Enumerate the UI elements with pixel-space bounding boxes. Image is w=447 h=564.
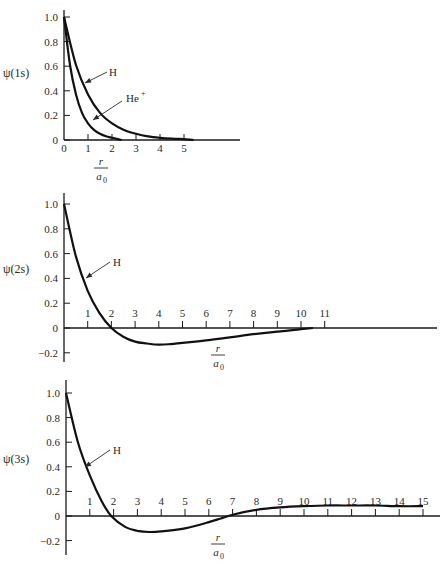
x-label-denominator: a bbox=[96, 170, 102, 182]
x-tick-label: 2 bbox=[109, 307, 115, 319]
x-tick-label: 3 bbox=[132, 307, 138, 319]
x-tick-label: 4 bbox=[156, 307, 162, 319]
chart-2s: −0.200.20.40.60.81.01234567891011ψ(2s)ra… bbox=[3, 193, 437, 372]
y-tick-label: 0.6 bbox=[44, 248, 58, 260]
x-tick-label: 1 bbox=[85, 142, 91, 154]
x-label-subscript: 0 bbox=[220, 363, 224, 372]
x-tick-label: 1 bbox=[85, 307, 91, 319]
y-tick-label: 0.8 bbox=[44, 223, 58, 235]
y-axis-label: ψ(3s) bbox=[3, 452, 29, 466]
chart-1s: 00.20.40.60.81.0012345ψ(1s)ra0HHe+ bbox=[3, 10, 240, 185]
x-label-numerator: r bbox=[216, 531, 221, 543]
x-tick-label: 5 bbox=[182, 495, 188, 507]
x-tick-label: 4 bbox=[157, 142, 163, 154]
y-tick-label: −0.2 bbox=[40, 535, 60, 547]
x-label-denominator: a bbox=[213, 357, 219, 369]
x-tick-label: 3 bbox=[135, 495, 141, 507]
y-tick-label: 0.2 bbox=[46, 485, 60, 497]
y-tick-label: 0.4 bbox=[46, 461, 60, 473]
x-label-subscript: 0 bbox=[103, 176, 107, 185]
annotation-he-plus-sup: + bbox=[141, 89, 146, 98]
y-tick-label: 0.2 bbox=[44, 297, 58, 309]
x-tick-label: 10 bbox=[296, 307, 308, 319]
curve-h bbox=[64, 17, 194, 140]
y-tick-label: 0.6 bbox=[46, 436, 60, 448]
y-tick-label: 0 bbox=[55, 510, 61, 522]
y-tick-label: −0.2 bbox=[38, 347, 58, 359]
x-tick-label: 0 bbox=[61, 142, 67, 154]
y-tick-label: 0.4 bbox=[44, 85, 58, 97]
x-tick-label: 4 bbox=[158, 495, 164, 507]
x-tick-label: 6 bbox=[203, 307, 209, 319]
x-tick-label: 9 bbox=[275, 307, 281, 319]
annotation-h: H bbox=[113, 444, 121, 456]
x-tick-label: 7 bbox=[230, 495, 236, 507]
y-tick-label: 1.0 bbox=[44, 11, 58, 23]
annotation-he-plus: He bbox=[126, 92, 139, 104]
y-tick-label: 0 bbox=[53, 322, 59, 334]
x-tick-label: 5 bbox=[181, 142, 187, 154]
curve-h bbox=[64, 204, 313, 345]
x-tick-label: 11 bbox=[319, 307, 330, 319]
y-tick-label: 1.0 bbox=[46, 387, 60, 399]
y-axis-label: ψ(1s) bbox=[3, 66, 29, 80]
curve-he-plus bbox=[64, 17, 122, 140]
x-tick-label: 5 bbox=[180, 307, 186, 319]
x-tick-label: 8 bbox=[251, 307, 257, 319]
y-tick-label: 1.0 bbox=[44, 198, 58, 210]
x-tick-label: 2 bbox=[109, 142, 115, 154]
y-axis-label: ψ(2s) bbox=[3, 262, 29, 276]
x-label-numerator: r bbox=[216, 342, 221, 354]
annotation-h: H bbox=[109, 66, 117, 78]
annotation-arrow-h-head bbox=[86, 273, 92, 278]
y-tick-label: 0.6 bbox=[44, 60, 58, 72]
x-tick-label: 1 bbox=[87, 495, 93, 507]
x-tick-label: 6 bbox=[206, 495, 212, 507]
annotation-arrow-he-head bbox=[93, 115, 99, 120]
curve-h bbox=[66, 393, 423, 532]
x-tick-label: 7 bbox=[227, 307, 233, 319]
y-tick-label: 0 bbox=[53, 134, 59, 146]
chart-3s: −0.200.20.40.60.81.012345678910111213141… bbox=[3, 380, 440, 561]
x-tick-label: 3 bbox=[133, 142, 139, 154]
x-tick-label: 9 bbox=[277, 495, 283, 507]
y-tick-label: 0.2 bbox=[44, 109, 58, 121]
y-tick-label: 0.8 bbox=[44, 36, 58, 48]
x-tick-label: 8 bbox=[254, 495, 260, 507]
x-label-numerator: r bbox=[99, 155, 104, 167]
y-tick-label: 0.4 bbox=[44, 272, 58, 284]
x-tick-label: 2 bbox=[111, 495, 117, 507]
orbital-wavefunction-figure: 00.20.40.60.81.0012345ψ(1s)ra0HHe+ −0.20… bbox=[0, 0, 447, 564]
x-label-subscript: 0 bbox=[220, 552, 224, 561]
y-tick-label: 0.8 bbox=[46, 412, 60, 424]
x-label-denominator: a bbox=[213, 546, 219, 558]
annotation-h: H bbox=[113, 256, 121, 268]
